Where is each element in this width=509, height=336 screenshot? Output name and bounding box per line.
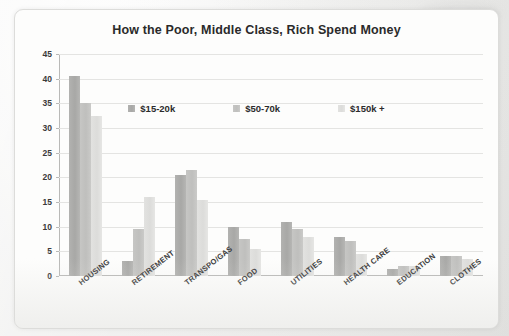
y-tick-label: 5 <box>47 246 52 256</box>
y-tick-label: 20 <box>43 172 52 182</box>
bar[interactable] <box>175 175 186 276</box>
bar[interactable] <box>186 170 197 276</box>
plot-area: 051015202530354045 <box>59 54 483 276</box>
bar[interactable] <box>334 237 345 276</box>
y-tick-label: 10 <box>43 222 52 232</box>
bar-group <box>112 54 165 276</box>
y-tick-label: 15 <box>43 197 52 207</box>
bar[interactable] <box>281 222 292 276</box>
chart-card: How the Poor, Middle Class, Rich Spend M… <box>14 9 499 329</box>
bar-group <box>165 54 218 276</box>
y-tick-label: 30 <box>43 123 52 133</box>
y-tick-label: 40 <box>43 74 52 84</box>
y-tick-label: 45 <box>43 49 52 59</box>
y-tick-label: 35 <box>43 98 52 108</box>
bar[interactable] <box>80 103 91 276</box>
chart-title: How the Poor, Middle Class, Rich Spend M… <box>15 23 498 37</box>
bar-group <box>218 54 271 276</box>
bar[interactable] <box>440 256 451 276</box>
bar-group <box>324 54 377 276</box>
bar[interactable] <box>91 116 102 276</box>
bar-group <box>377 54 430 276</box>
bar-group <box>271 54 324 276</box>
y-tick-mark <box>56 276 59 277</box>
scanned-page-background: How the Poor, Middle Class, Rich Spend M… <box>0 0 509 336</box>
y-tick-label: 0 <box>47 271 52 281</box>
bar[interactable] <box>387 269 398 276</box>
bar[interactable] <box>69 76 80 276</box>
bar-group <box>59 54 112 276</box>
bar-group <box>430 54 483 276</box>
bar[interactable] <box>122 261 133 276</box>
y-tick-label: 25 <box>43 148 52 158</box>
